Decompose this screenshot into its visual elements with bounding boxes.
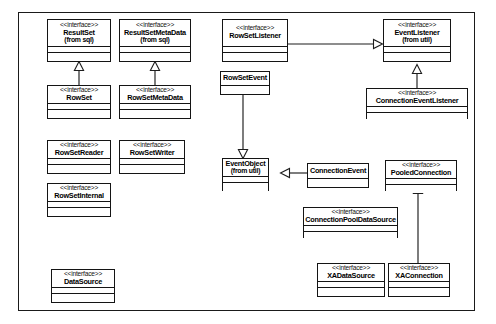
operation-compartment (221, 86, 269, 94)
class-header: <<interface>> PooledConnection (386, 161, 456, 179)
generalization-xaconnection-to-pooledconnection (413, 185, 422, 264)
class-header: <<interface>> RowSetMetaData (120, 86, 190, 104)
class-node-connectioneventlistener[interactable]: <<interface>> ConnectionEventListener (366, 88, 468, 119)
class-node-xadatasource[interactable]: <<interface>> XADataSource (317, 263, 385, 297)
class-header: <<interface>> ResultSetMetaData (from sq… (120, 20, 190, 47)
class-header: <<interface>> RowSetListener (223, 20, 287, 47)
class-name: ConnectionPoolDataSource (305, 216, 396, 223)
class-name: RowSetMetaData (127, 94, 183, 101)
operation-compartment (120, 165, 184, 173)
diagram-canvas: <<interface>> ResultSet (from sql) <<int… (0, 0, 496, 324)
class-package: (from sql) (140, 36, 169, 43)
class-node-resultset[interactable]: <<interface>> ResultSet (from sql) (47, 19, 111, 62)
generalization-connectionevent-to-eventobject (281, 168, 308, 177)
class-header: <<interface>> ConnectionPoolDataSource (304, 208, 397, 226)
class-header: <<interface>> RowSet (48, 86, 110, 104)
operation-compartment (389, 288, 449, 296)
class-node-rowsetreader[interactable]: <<interface>> RowSetReader (47, 140, 111, 174)
operation-compartment (120, 53, 190, 61)
class-header: <<interface>> DataSource (52, 270, 114, 288)
operation-compartment (318, 288, 384, 296)
class-name: ResultSet (63, 29, 94, 36)
operation-compartment (223, 183, 268, 191)
class-header: <<interface>> ConnectionEventListener (367, 89, 467, 107)
class-name: ResultSetMetaData (124, 29, 186, 36)
class-header: <<interface>> RowSetReader (48, 141, 110, 159)
operation-compartment (308, 179, 368, 187)
operation-compartment (48, 208, 110, 216)
class-name: RowSetListener (229, 32, 281, 39)
operation-compartment (384, 53, 450, 61)
class-node-rowsetinternal[interactable]: <<interface>> RowSetInternal (47, 183, 111, 217)
class-name: RowSetEvent (223, 74, 267, 81)
class-node-eventlistener[interactable]: <<interface>> EventListener (from util) (383, 19, 451, 62)
class-name: RowSet (66, 94, 91, 101)
class-node-rowsetmetadata[interactable]: <<interface>> RowSetMetaData (119, 85, 191, 119)
class-name: EventListener (394, 29, 439, 36)
generalization-connectioneventlistener-to-eventlistener (412, 65, 421, 89)
class-node-resultsetmetadata[interactable]: <<interface>> ResultSetMetaData (from sq… (119, 19, 191, 62)
class-node-pooledconnection[interactable]: <<interface>> PooledConnection (385, 160, 457, 191)
class-node-connectionpooldatasource[interactable]: <<interface>> ConnectionPoolDataSource (303, 207, 398, 238)
class-node-xaconnection[interactable]: <<interface>> XAConnection (388, 263, 450, 297)
class-header: RowSetEvent (221, 72, 269, 86)
class-package: (from sql) (64, 36, 93, 43)
class-name: RowSetInternal (54, 192, 104, 199)
operation-compartment (304, 232, 397, 240)
class-node-rowsetevent[interactable]: RowSetEvent (220, 71, 270, 95)
class-name: XADataSource (327, 272, 375, 279)
generalization-rowsetmetadata-to-resultsetmetadata (150, 62, 159, 86)
generalization-rowsetevent-to-eventobject (238, 95, 247, 159)
operation-compartment (52, 294, 114, 302)
generalization-rowset-to-resultset (74, 62, 83, 86)
operation-compartment (48, 165, 110, 173)
class-header: <<interface>> EventListener (from util) (384, 20, 450, 47)
class-header: <<interface>> RowSetInternal (48, 184, 110, 202)
class-package: (from util) (231, 167, 260, 174)
class-header: ConnectionEvent (308, 164, 368, 179)
operation-compartment (367, 113, 467, 121)
operation-compartment (386, 185, 456, 193)
class-node-datasource[interactable]: <<interface>> DataSource (51, 269, 115, 303)
class-name: ConnectionEvent (310, 167, 366, 174)
class-node-rowsetwriter[interactable]: <<interface>> RowSetWriter (119, 140, 185, 174)
class-name: RowSetReader (55, 149, 104, 156)
class-header: <<interface>> XAConnection (389, 264, 449, 282)
generalization-rowsetlistener-to-eventlistener (288, 39, 383, 48)
class-node-eventobject[interactable]: EventObject (from util) (222, 158, 269, 191)
class-name: ConnectionEventListener (376, 97, 459, 104)
operation-compartment (48, 53, 110, 61)
operation-compartment (120, 110, 190, 118)
operation-compartment (48, 110, 110, 118)
class-node-connectionevent[interactable]: ConnectionEvent (307, 163, 369, 188)
class-node-rowset[interactable]: <<interface>> RowSet (47, 85, 111, 119)
class-header: <<interface>> ResultSet (from sql) (48, 20, 110, 47)
class-node-rowsetlistener[interactable]: <<interface>> RowSetListener (222, 19, 288, 62)
class-name: DataSource (64, 278, 102, 285)
class-header: <<interface>> XADataSource (318, 264, 384, 282)
operation-compartment (223, 53, 287, 61)
class-name: EventObject (226, 160, 266, 167)
class-header: <<interface>> RowSetWriter (120, 141, 184, 159)
class-name: PooledConnection (391, 169, 451, 176)
class-header: EventObject (from util) (223, 159, 268, 177)
class-package: (from util) (402, 36, 431, 43)
class-name: XAConnection (395, 272, 442, 279)
class-name: RowSetWriter (130, 149, 175, 156)
